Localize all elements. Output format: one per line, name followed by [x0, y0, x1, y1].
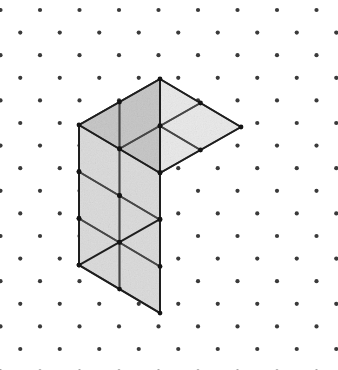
isometric-cube-stack-figure: [0, 0, 338, 370]
vertex-dot: [158, 170, 163, 175]
vertex-dot: [198, 101, 203, 106]
vertex-dot: [117, 240, 122, 245]
vertex-dot: [239, 125, 244, 130]
vertex-dot: [77, 169, 82, 174]
vertex-dot: [158, 217, 163, 222]
vertex-dot: [158, 77, 163, 82]
vertex-dot: [117, 146, 122, 151]
vertex-dot: [117, 100, 122, 105]
vertex-dot: [77, 123, 82, 128]
vertex-dot: [117, 193, 122, 198]
vertex-dot: [198, 148, 203, 153]
vertex-dot: [77, 216, 82, 221]
vertex-dot: [158, 311, 163, 316]
vertex-dot: [158, 123, 163, 128]
vertex-dot: [117, 287, 122, 292]
vertex-dot: [77, 263, 82, 268]
vertex-dot: [158, 264, 163, 269]
drawing-canvas: [0, 0, 338, 370]
